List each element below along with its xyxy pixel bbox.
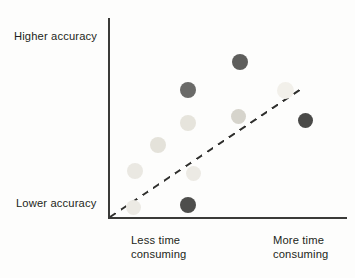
- x-axis-label-left: Less time consuming: [131, 234, 186, 261]
- trend-line-dashed: [109, 87, 303, 218]
- data-point: [298, 113, 313, 128]
- data-point: [126, 200, 141, 215]
- data-point: [180, 115, 196, 131]
- data-point: [277, 82, 294, 99]
- x-axis-label-right: More time consuming: [273, 234, 328, 261]
- y-axis-label-low: Lower accuracy: [16, 197, 96, 211]
- y-axis-line: [108, 18, 110, 219]
- data-point: [180, 197, 196, 213]
- data-point: [180, 82, 196, 98]
- data-point: [186, 166, 201, 181]
- scatter-chart: Higher accuracy Lower accuracy Less time…: [0, 0, 355, 278]
- data-point: [150, 137, 166, 153]
- x-axis-line: [108, 217, 347, 219]
- data-point: [232, 54, 248, 70]
- y-axis-label-high: Higher accuracy: [14, 30, 97, 44]
- data-point: [231, 109, 246, 124]
- data-point: [127, 163, 143, 179]
